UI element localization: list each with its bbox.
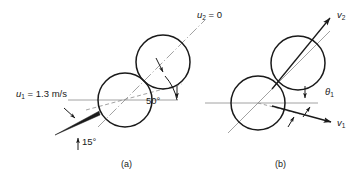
v1-label: v1: [337, 117, 346, 129]
panel-b-caption: (b): [275, 159, 286, 169]
line-of-centers-a: [98, 20, 205, 127]
angle-50-tick-upper: [156, 58, 163, 72]
angle-15-label: 15°: [82, 136, 97, 147]
collision-figure: u1 = 1.3 m/s u2 = 0 50° 15° (a): [0, 0, 356, 177]
panel-a: u1 = 1.3 m/s u2 = 0 50° 15° (a): [16, 9, 222, 169]
u2-label: u2 = 0: [197, 9, 222, 21]
v1-velocity-arrow: [272, 106, 331, 122]
panel-a-caption: (a): [121, 159, 132, 169]
figure-canvas: u1 = 1.3 m/s u2 = 0 50° 15° (a): [0, 0, 356, 177]
u1-velocity-arrow: [55, 111, 100, 135]
u1-label: u1 = 1.3 m/s: [16, 88, 67, 100]
ball-2-before: [136, 35, 190, 89]
v2-label: v2: [337, 9, 346, 21]
angle-50-label: 50°: [146, 95, 161, 106]
theta1-tick-v1: [288, 117, 294, 127]
theta1-label: θ1: [325, 86, 334, 98]
angle-15-tick-upper: [64, 108, 75, 118]
panel-b: v2 v1 θ1 (b): [205, 9, 346, 169]
v2-velocity-arrow: [272, 18, 330, 89]
